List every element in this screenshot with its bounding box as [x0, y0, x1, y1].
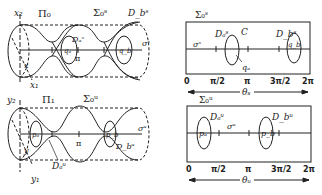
point-y-label: y	[23, 146, 29, 155]
sigma-u-label: Σ₀ᵘ	[83, 93, 98, 104]
point-x-label: x	[24, 61, 29, 70]
disk-a-label: Dₐˢ	[71, 35, 84, 44]
point-pb-label: p_b	[106, 131, 119, 139]
arrowhead-right	[303, 178, 309, 182]
point-qb-label: q_b	[119, 47, 132, 55]
pi-label: π	[75, 54, 80, 63]
x1-label: x₁	[30, 80, 39, 90]
disk-a-label: Dₐˢ	[214, 29, 229, 39]
disk-b-label: D_bᵘ	[271, 112, 293, 123]
sigma-s-label: Σ₀ˢ	[93, 7, 107, 18]
surface-upper-curve	[20, 106, 138, 132]
curve-c-label: C	[241, 27, 248, 37]
point-pb-label: p_b	[261, 129, 275, 138]
bottom-left-surface	[8, 100, 149, 172]
left-section-front	[8, 25, 20, 77]
diagram-canvas: x₂ Π₀ Σ₀ˢ D_bˢ Dₐˢ qₐ q_b π σˢ x x₁ y₂ Π…	[0, 0, 322, 195]
tick-label-3pi-2: 3π/2	[270, 77, 290, 86]
point-pa-label: pₐ	[199, 129, 207, 138]
tick-label-2pi: 2π	[302, 77, 314, 86]
disk-a-label: Dₐᵘ	[51, 161, 67, 171]
x2-label: x₂	[14, 8, 23, 18]
sigma-s-label: Σ₀ˢ	[195, 10, 208, 20]
disk-b-label: D_bˢ	[127, 8, 149, 19]
orbit-sigma-u-label: σᵘ	[227, 122, 236, 131]
plane-pi0-label: Π₀	[38, 8, 51, 19]
disk-a-label: Dₐᵘ	[209, 112, 225, 122]
point-qa-label: qₐ	[242, 63, 250, 72]
point-qa-label: qₐ	[64, 47, 71, 55]
plane-pi1-label: Π₁	[42, 94, 55, 105]
tick-label-0: 0	[186, 165, 192, 174]
tick-label-pi: π	[244, 77, 250, 86]
orbit-sigma-u-label: σᵘ	[138, 124, 147, 133]
leader-line	[49, 140, 58, 160]
arrowhead-left	[188, 90, 194, 94]
tick-label-pi: π	[245, 165, 251, 174]
y2-label: y₂	[6, 95, 16, 105]
tick-label-0: 0	[184, 77, 190, 86]
tick-label-pi-2: π/2	[210, 77, 225, 86]
point-pa-label: pₐ	[32, 131, 39, 139]
orbit-sigma-s-label: σˢ	[142, 39, 150, 48]
disk-a	[225, 35, 239, 65]
sigma-u-label: Σ₀ᵘ	[199, 95, 213, 105]
tick-label-pi-2: π/2	[211, 165, 226, 174]
disk-b-label: D_bᵘ	[115, 142, 135, 151]
orbit-sigma-s-label: σˢ	[193, 40, 201, 49]
theta-u-label: θᵤ	[242, 175, 251, 185]
tick-label-3pi-2: 3π/2	[271, 165, 291, 174]
tick-label-2pi: 2π	[303, 165, 315, 174]
y1-label: y₁	[30, 174, 40, 184]
disk-b-label: D_bˢ	[275, 29, 297, 40]
theta-s-label: θₛ	[242, 87, 250, 97]
point-qb-label: q_b	[288, 41, 301, 49]
pi-label: π	[76, 139, 81, 148]
arrowhead-right	[302, 90, 308, 94]
arrowhead-left	[189, 178, 195, 182]
cylinder-end-dashed	[140, 25, 149, 77]
